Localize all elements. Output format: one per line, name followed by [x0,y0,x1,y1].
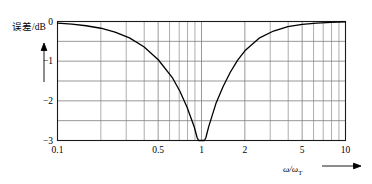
x-axis-label: ω/ω [283,164,298,174]
y-tick-label: 0 [48,17,53,27]
y-tick-label: −3 [43,136,53,146]
x-tick-label: 2 [242,145,247,155]
y-tick-label: −2 [43,96,53,106]
x-tick-label: 5 [300,145,305,155]
x-axis-label-subscript: T [298,169,302,176]
x-tick-label: 0.1 [52,145,64,155]
x-tick-label: 0.5 [152,145,164,155]
chart-figure: 0.10.512510 0−1−2−3 误差/dB ω/ωT [0,0,372,184]
error-db-log-plot: 0.10.512510 0−1−2−3 误差/dB ω/ωT [0,0,372,184]
y-axis-label: 误差/dB [12,21,46,32]
x-tick-label: 10 [341,145,351,155]
x-tick-label: 1 [199,145,204,155]
chart-background [0,0,372,184]
